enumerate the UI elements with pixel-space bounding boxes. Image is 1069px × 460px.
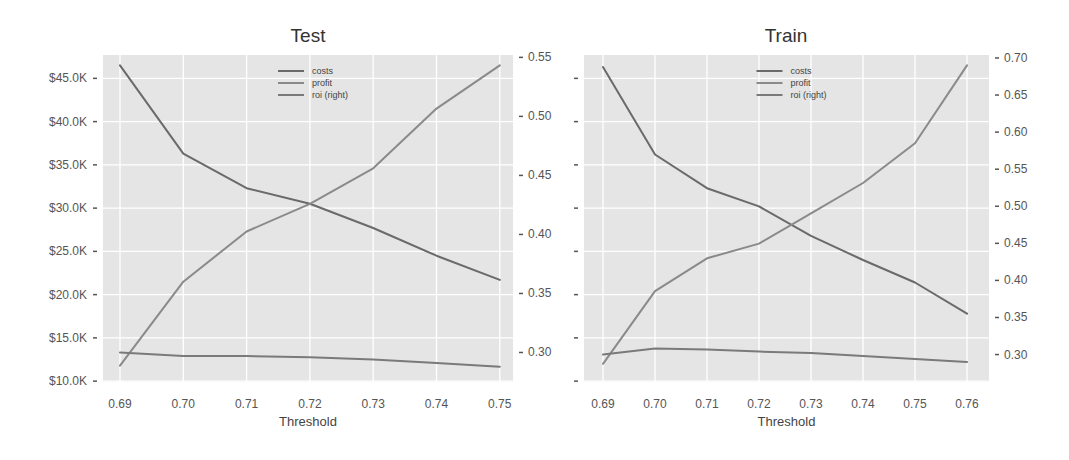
train-right-tick-label: 0.55: [1004, 162, 1028, 176]
legend-label-profit: profit: [312, 78, 333, 88]
legend-label-roi: roi (right): [791, 90, 827, 100]
train-x-tick-label: 0.72: [747, 397, 771, 411]
test-x-tick-label: 0.73: [362, 397, 386, 411]
test-right-tick-label: 0.55: [528, 50, 552, 64]
train-right-tick-label: 0.40: [1004, 273, 1028, 287]
test-right-tick-label: 0.35: [528, 286, 552, 300]
test-right-tick-label: 0.50: [528, 109, 552, 123]
train-x-tick-label: 0.76: [955, 397, 979, 411]
train-x-tick-label: 0.74: [851, 397, 875, 411]
test-x-tick-label: 0.70: [172, 397, 196, 411]
test-right-tick-label: 0.30: [528, 345, 552, 359]
test-left-tick-label: $35.0K: [49, 158, 87, 172]
test-x-tick-label: 0.72: [298, 397, 322, 411]
train-x-axis-label: Threshold: [758, 414, 816, 429]
test-right-tick-label: 0.40: [528, 227, 552, 241]
train-x-tick-label: 0.70: [643, 397, 667, 411]
train-right-tick-label: 0.30: [1004, 348, 1028, 362]
train-right-tick-label: 0.50: [1004, 199, 1028, 213]
test-x-tick-label: 0.69: [108, 397, 132, 411]
train-right-tick-label: 0.35: [1004, 310, 1028, 324]
test-left-tick-label: $10.0K: [49, 374, 87, 388]
test-chart-panel: $10.0K$15.0K$20.0K$25.0K$30.0K$35.0K$40.…: [49, 25, 552, 429]
test-x-tick-label: 0.71: [235, 397, 259, 411]
test-left-tick-label: $25.0K: [49, 244, 87, 258]
train-x-tick-label: 0.71: [695, 397, 719, 411]
train-right-tick-label: 0.65: [1004, 88, 1028, 102]
train-x-tick-label: 0.75: [903, 397, 927, 411]
test-chart-title: Test: [291, 25, 327, 46]
legend-label-costs: costs: [312, 66, 334, 76]
train-plot-area: [584, 55, 989, 382]
test-x-axis-label: Threshold: [279, 414, 337, 429]
legend-label-costs: costs: [791, 66, 813, 76]
test-x-tick-label: 0.75: [488, 397, 512, 411]
test-left-tick-label: $30.0K: [49, 201, 87, 215]
train-chart-panel: 0.300.350.400.450.500.550.600.650.700.69…: [574, 25, 1028, 429]
test-left-tick-label: $20.0K: [49, 288, 87, 302]
legend-label-profit: profit: [791, 78, 812, 88]
legend-label-roi: roi (right): [312, 90, 348, 100]
figure: $10.0K$15.0K$20.0K$25.0K$30.0K$35.0K$40.…: [0, 0, 1069, 460]
train-right-tick-label: 0.45: [1004, 236, 1028, 250]
test-left-tick-label: $15.0K: [49, 331, 87, 345]
train-x-tick-label: 0.69: [591, 397, 615, 411]
test-left-tick-label: $40.0K: [49, 115, 87, 129]
test-right-tick-label: 0.45: [528, 168, 552, 182]
train-x-tick-label: 0.73: [799, 397, 823, 411]
train-chart-title: Train: [765, 25, 808, 46]
test-x-tick-label: 0.74: [425, 397, 449, 411]
train-right-tick-label: 0.60: [1004, 125, 1028, 139]
test-plot-area: [103, 55, 513, 382]
train-right-tick-label: 0.70: [1004, 51, 1028, 65]
test-left-tick-label: $45.0K: [49, 71, 87, 85]
